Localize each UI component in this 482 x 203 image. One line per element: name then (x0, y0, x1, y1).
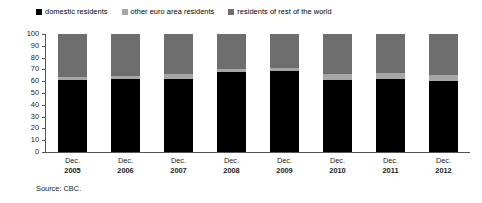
x-axis-label-year: 2009 (258, 166, 311, 176)
bar-segment-residents-of-rest-of-the-world[interactable] (58, 34, 87, 76)
x-axis-label-year: 2006 (99, 166, 152, 176)
bar-stack (429, 34, 458, 152)
x-axis-label-month: Dec. (417, 156, 470, 166)
bar-segment-residents-of-rest-of-the-world[interactable] (376, 34, 405, 73)
bar-group[interactable] (164, 34, 193, 152)
bar-segment-domestic-residents[interactable] (323, 80, 352, 152)
legend-item-other-euro-area-residents: other euro area residents (122, 7, 215, 16)
legend-swatch-other-euro-area-residents (122, 9, 128, 15)
bar-segment-residents-of-rest-of-the-world[interactable] (429, 34, 458, 75)
y-axis-tick: 0 (42, 152, 46, 153)
source-note: Source: CBC. (36, 184, 81, 193)
y-axis-tick-label: 40 (31, 100, 39, 109)
bar-group[interactable] (376, 34, 405, 152)
x-axis-label: Dec.2008 (205, 156, 258, 176)
x-axis-label: Dec.2009 (258, 156, 311, 176)
x-axis-label-month: Dec. (99, 156, 152, 166)
y-axis-tick-label: 30 (31, 112, 39, 121)
x-axis-label-month: Dec. (311, 156, 364, 166)
y-axis-tick-label: 10 (31, 135, 39, 144)
x-axis-label-month: Dec. (364, 156, 417, 166)
plot-area: 1009080706050403020100 (46, 34, 470, 152)
y-axis-tick-label: 80 (31, 53, 39, 62)
y-axis-tick-label: 100 (27, 29, 39, 38)
x-axis-label: Dec.2006 (99, 156, 152, 176)
bar-group[interactable] (323, 34, 352, 152)
bar-segment-residents-of-rest-of-the-world[interactable] (164, 34, 193, 74)
x-axis-line (45, 152, 470, 153)
x-axis-label-year: 2011 (364, 166, 417, 176)
bar-group[interactable] (111, 34, 140, 152)
x-axis-label: Dec.2010 (311, 156, 364, 176)
x-axis-label-year: 2007 (152, 166, 205, 176)
bar-stack (270, 34, 299, 152)
x-axis-label: Dec.2007 (152, 156, 205, 176)
x-axis-label-year: 2008 (205, 166, 258, 176)
bar-stack (323, 34, 352, 152)
bar-segment-domestic-residents[interactable] (376, 79, 405, 152)
y-axis-tick-label: 50 (31, 88, 39, 97)
bar-segment-domestic-residents[interactable] (164, 79, 193, 152)
bar-group[interactable] (217, 34, 246, 152)
y-axis-tick-label: 60 (31, 76, 39, 85)
bar-group[interactable] (58, 34, 87, 152)
legend-label-other-euro-area-residents: other euro area residents (131, 7, 215, 16)
legend-label-residents-of-rest-of-the-world: residents of rest of the world (237, 7, 331, 16)
legend-swatch-domestic-residents (36, 9, 42, 15)
bar-segment-domestic-residents[interactable] (429, 81, 458, 152)
x-axis-label-month: Dec. (258, 156, 311, 166)
bar-stack (164, 34, 193, 152)
y-axis-tick-label: 70 (31, 64, 39, 73)
bar-group[interactable] (429, 34, 458, 152)
bar-segment-domestic-residents[interactable] (58, 80, 87, 152)
legend-label-domestic-residents: domestic residents (45, 7, 108, 16)
bar-segment-residents-of-rest-of-the-world[interactable] (323, 34, 352, 74)
bar-group[interactable] (270, 34, 299, 152)
bar-stack (376, 34, 405, 152)
x-axis-label-year: 2005 (46, 166, 99, 176)
x-axis-label-month: Dec. (152, 156, 205, 166)
x-axis-labels: Dec.2005Dec.2006Dec.2007Dec.2008Dec.2009… (46, 156, 470, 180)
bar-segment-residents-of-rest-of-the-world[interactable] (111, 34, 140, 76)
x-axis-label: Dec.2005 (46, 156, 99, 176)
bar-segment-residents-of-rest-of-the-world[interactable] (217, 34, 246, 69)
y-axis-tick-label: 20 (31, 123, 39, 132)
x-axis-label-year: 2010 (311, 166, 364, 176)
x-axis-label-year: 2012 (417, 166, 470, 176)
bar-segment-domestic-residents[interactable] (270, 71, 299, 152)
bar-stack (217, 34, 246, 152)
x-axis-label-month: Dec. (46, 156, 99, 166)
bar-series-container (46, 34, 470, 152)
bar-segment-domestic-residents[interactable] (217, 72, 246, 152)
bar-stack (58, 34, 87, 152)
x-axis-label: Dec.2012 (417, 156, 470, 176)
bar-segment-residents-of-rest-of-the-world[interactable] (270, 34, 299, 68)
legend-swatch-residents-of-rest-of-the-world (228, 9, 234, 15)
y-axis-tick-label: 0 (35, 147, 39, 156)
x-axis-label: Dec.2011 (364, 156, 417, 176)
chart-figure: domestic residents other euro area resid… (0, 0, 482, 203)
x-axis-label-month: Dec. (205, 156, 258, 166)
bar-stack (111, 34, 140, 152)
y-axis-tick-label: 90 (31, 41, 39, 50)
bar-segment-domestic-residents[interactable] (111, 79, 140, 152)
legend-item-domestic-residents: domestic residents (36, 7, 108, 16)
chart-legend: domestic residents other euro area resid… (36, 7, 332, 16)
legend-item-residents-of-rest-of-the-world: residents of rest of the world (228, 7, 331, 16)
